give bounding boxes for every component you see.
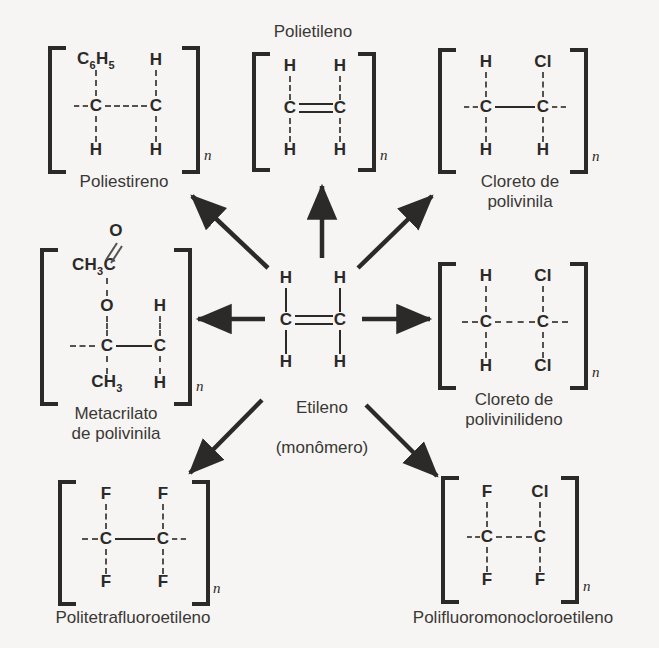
bond-right-top (542, 72, 544, 97)
bond-right-top (339, 76, 341, 100)
bond-ester-oxygen-carbon (106, 316, 108, 336)
atom-left-bottom: H (284, 140, 297, 160)
caption-etileno: Etileno (monômero) (276, 378, 369, 458)
atom-right-bottom: H (150, 140, 163, 160)
atom-right-top: H (154, 296, 167, 316)
caption-cloreto-de-polivinila: Cloreto de polivinila (451, 172, 590, 212)
atom-right-bottom: H (334, 352, 347, 372)
bracket-right-icon (358, 52, 376, 172)
bond-left-bottom (285, 330, 287, 354)
bond-chain-left (462, 321, 478, 323)
bond-left-top (486, 502, 488, 527)
subscript-n: n (380, 147, 388, 164)
bond-carbon-carbon (115, 538, 155, 540)
bond-left-bottom (289, 118, 291, 142)
caption-metacrilato-de-polivinila: Metacrilato de polivinila (72, 404, 161, 444)
atom-right-top: H (334, 268, 347, 288)
atom-left-top: H (480, 52, 493, 72)
atom-right-top: Cl (531, 482, 549, 502)
bond-carbon-carbon (495, 106, 535, 108)
atom-left-top: H (280, 268, 293, 288)
atom-left-carbon: C (101, 336, 114, 356)
structure-polietileno: H H C C H H n (252, 52, 376, 164)
bond-right-bottom (155, 116, 157, 142)
atom-right-carbon: C (157, 529, 170, 549)
atom-right-bottom: F (158, 572, 169, 592)
caption-polifluoromonocloroetileno: Polifluoromonocloroetileno (413, 608, 613, 628)
structure-polifluoromonocloroetileno: F Cl C C F F n (441, 476, 579, 596)
atom-left-carbon: C (90, 96, 103, 116)
bond-chain-left (82, 538, 98, 540)
bond-double-upper (299, 103, 333, 105)
bond-chain-right (552, 321, 568, 323)
structure-metacrilato-de-polivinila: CH3C O H C C CH3 H n (40, 248, 192, 398)
bracket-right-icon (570, 262, 588, 390)
bond-left-bottom (105, 549, 107, 574)
bond-right-bottom (539, 547, 541, 572)
bracket-left-icon (58, 480, 76, 606)
atom-right-bottom: H (537, 140, 550, 160)
atom-left-carbon: C (100, 529, 113, 549)
structure-poliestireno: C6H5 H C C H H n (48, 46, 200, 166)
atom-right-bottom: H (334, 140, 347, 160)
bond-right-top (155, 70, 157, 96)
bond-chain-left (464, 106, 478, 108)
bond-left-bottom (485, 117, 487, 142)
bond-right-top (539, 502, 541, 527)
bond-right-top (542, 286, 544, 312)
bond-double-lower (295, 323, 333, 325)
subscript-n: n (204, 147, 212, 164)
bond-double-lower (299, 111, 333, 113)
bond-right-bottom (162, 549, 164, 574)
bond-right-bottom (339, 118, 341, 142)
atom-left-carbon: C (480, 97, 493, 117)
atom-right-top: Cl (534, 266, 552, 286)
bond-right-bottom (159, 356, 161, 374)
atom-ch3c: CH3C (72, 255, 116, 276)
atom-left-bottom: H (280, 352, 293, 372)
atom-left-bottom: CH3 (91, 372, 123, 393)
atom-right-carbon: C (534, 527, 547, 547)
bond-left-top (485, 72, 487, 97)
bracket-left-icon (438, 48, 456, 174)
bond-left-top (289, 76, 291, 100)
atom-left-carbon: C (284, 98, 297, 118)
bond-right-bottom (542, 332, 544, 358)
atom-right-carbon: C (537, 97, 550, 117)
subscript-n: n (196, 378, 204, 395)
bracket-left-icon (438, 262, 456, 390)
bond-left-bottom (486, 547, 488, 572)
atom-right-bottom: H (154, 373, 167, 393)
bond-left-bottom (106, 356, 108, 374)
subscript-n: n (213, 580, 221, 597)
atom-left-carbon: C (480, 312, 493, 332)
atom-left-bottom: F (101, 572, 112, 592)
bond-double-upper (295, 315, 333, 317)
bond-carbon-carbon (496, 536, 532, 538)
atom-left-top: H (284, 56, 297, 76)
atom-right-carbon: C (334, 310, 347, 330)
atom-right-carbon: C (537, 312, 550, 332)
arrow-to-politetrafluoroetileno (190, 400, 262, 473)
bracket-right-icon (570, 48, 588, 174)
bracket-left-icon (48, 46, 66, 174)
bracket-right-icon (561, 476, 579, 604)
bracket-right-icon (192, 480, 210, 606)
subscript-n: n (592, 148, 600, 165)
bond-chain-right (172, 538, 186, 540)
atom-right-carbon: C (334, 98, 347, 118)
atom-left-bottom: F (482, 570, 493, 590)
caption-politetrafluoroetileno: Politetrafluoroetileno (56, 608, 211, 628)
polymer-diagram: C6H5 H C C H H n Poliestireno Polietilen… (0, 0, 659, 648)
bond-carbon-carbon (116, 345, 152, 347)
atom-left-bottom: H (480, 356, 493, 376)
atom-right-carbon: C (154, 336, 167, 356)
arrow-to-polifluoromonocloroetileno (366, 405, 437, 476)
bond-carbon-carbon (495, 321, 535, 323)
bracket-left-icon (441, 476, 459, 604)
atom-left-bottom: H (480, 140, 493, 160)
bond-ch3c-ester-oxygen (106, 278, 108, 296)
bond-chain-left (74, 105, 88, 107)
structure-cloreto-de-polivinila: H Cl C C H H n (438, 48, 588, 166)
bond-chain-left (467, 536, 480, 538)
